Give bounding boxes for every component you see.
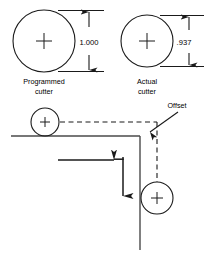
programmed-cutter-label-line1: Programmed <box>23 77 65 86</box>
actual-dimension-label: .937 <box>177 38 192 47</box>
crosshair-icon <box>139 33 155 49</box>
programmed-cutter-group: 1.000 Programmed cutter <box>13 10 104 96</box>
actual-cutter-label-line1: Actual <box>137 77 157 86</box>
programmed-dimension-label: 1.000 <box>79 38 98 47</box>
crosshair-icon <box>151 192 163 204</box>
crosshair-icon <box>36 33 52 49</box>
actual-cutter-label-line2: cutter <box>138 87 157 96</box>
diagram-canvas: 1.000 Programmed cutter .937 Actual cutt… <box>0 0 212 253</box>
crosshair-icon <box>40 117 50 127</box>
cutter-offset-diagram: 1.000 Programmed cutter .937 Actual cutt… <box>0 0 212 253</box>
actual-cutter-group: .937 Actual cutter <box>121 15 204 96</box>
programmed-cutter-label-line2: cutter <box>35 87 54 96</box>
offset-label: Offset <box>167 101 186 110</box>
feed-direction-arrow-icon <box>58 157 124 196</box>
offset-path-group: Offset <box>11 101 187 250</box>
